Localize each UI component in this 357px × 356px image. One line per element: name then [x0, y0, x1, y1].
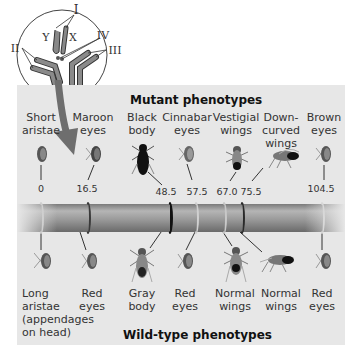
band-cinnabar-eyes — [193, 202, 199, 234]
wildtype-label-gray-body: Graybody — [128, 287, 155, 313]
band-short-aristae — [38, 202, 44, 234]
fly-head-red-eyes-icon — [80, 250, 100, 272]
wildtype-label-red-eyes: Redeyes — [79, 287, 105, 313]
band-downcurved-wings — [239, 202, 245, 234]
locus-position-104-5: 104.5 — [307, 183, 334, 194]
band-maroon-eyes — [85, 202, 91, 234]
fly-normal-wings-side-icon — [258, 250, 296, 274]
locus-position-48-5: 48.5 — [155, 186, 176, 197]
locus-position-57-5: 57.5 — [186, 186, 207, 197]
wildtype-label-red-eyes-2: Redeyes — [172, 287, 198, 313]
fly-head-red-eyes-icon — [314, 250, 334, 272]
band-vestigial-wings — [221, 202, 227, 234]
locus-position-75-5: 75.5 — [240, 186, 261, 197]
chromosome-bar — [17, 204, 345, 232]
wildtype-label-red-eyes-3: Redeyes — [309, 287, 335, 313]
locus-position-16-5: 16.5 — [76, 183, 97, 194]
fly-normal-wings-icon — [222, 244, 250, 284]
wildtype-label-normal-wings: Normalwings — [215, 287, 255, 313]
fly-head-long-aristae-icon — [34, 250, 54, 272]
locus-position-0: 0 — [38, 183, 44, 194]
fly-gray-body-icon — [128, 244, 156, 284]
fly-head-red-eyes-icon — [176, 250, 196, 272]
wildtype-label-normal-wings-2: Normalwings — [261, 287, 301, 313]
band-brown-eyes — [319, 202, 325, 234]
locus-position-67-0: 67.0 — [216, 186, 237, 197]
band-black-body — [167, 202, 173, 234]
